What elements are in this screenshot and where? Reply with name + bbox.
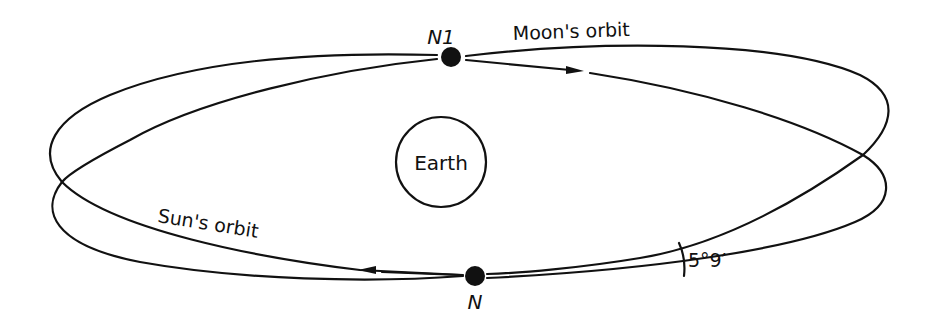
node-n1-label: N1 [427, 25, 455, 49]
sun-orbit-label: Sun's orbit [156, 204, 260, 242]
earth-label: Earth [414, 151, 468, 175]
inclination-label: 5°9′ [688, 249, 726, 271]
node-n-label: N [468, 290, 483, 314]
diagram-labels: N1 N Moon's orbit Sun's orbit Earth 5°9′ [0, 0, 935, 328]
moon-orbit-label: Moon's orbit [512, 18, 630, 44]
